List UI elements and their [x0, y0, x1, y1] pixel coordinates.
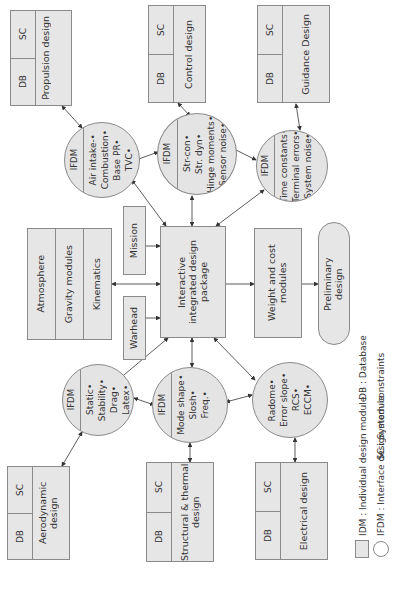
legend-db: DB : Database: [358, 300, 368, 400]
idm-label: Guidance Design: [301, 14, 312, 95]
sc-cell: SC: [8, 467, 32, 513]
environment-stack: Atmosphere Gravity modules Kinematics: [27, 228, 112, 340]
db-cell: DB: [147, 512, 171, 562]
idm-control: DBSC Control design: [148, 5, 206, 103]
warhead-module: Warhead: [123, 296, 146, 360]
db-cell: DB: [258, 54, 282, 103]
ifdm-structural: IFDM Mode shape Slosh Freq.: [152, 367, 228, 443]
legend-ifdm-swatch: [373, 541, 389, 557]
ifdm-guidance: IFDM Time constants Terminal errors Syst…: [256, 130, 328, 202]
db-cell: DB: [256, 511, 280, 560]
weight-cost-module: Weight and cost modules: [254, 228, 302, 338]
idm-structural: DBSC Structural & thermal design: [146, 462, 214, 562]
ifdm-propulsion: IFDM Air intake- Combustion Base PR TVC: [64, 122, 140, 198]
idm-aerodynamic: DBSC Aerodynamic design: [7, 466, 70, 560]
mission-module: Mission: [123, 206, 146, 275]
gravity-module: Gravity modules: [56, 229, 84, 339]
idm-label: Control design: [184, 20, 195, 89]
kinematics-module: Kinematics: [84, 229, 111, 339]
idm-label: Propulsion design: [41, 16, 67, 100]
db-cell: DB: [149, 54, 173, 103]
sc-cell: SC: [149, 6, 173, 54]
ifdm-control: IFDM Str-con Str. dyn Hinge moments Sens…: [157, 113, 237, 195]
sc-cell: SC: [256, 463, 280, 511]
idm-label: Aerodynamic design: [38, 467, 64, 559]
atmosphere-module: Atmosphere: [28, 229, 56, 339]
idm-electrical: DBSC Electrical design: [255, 462, 328, 560]
sc-cell: SC: [147, 463, 171, 512]
db-cell: DB: [8, 513, 32, 560]
idm-propulsion: DBSC Propulsion design: [10, 10, 72, 106]
sc-cell: SC: [258, 6, 282, 54]
sc-cell: SC: [11, 11, 35, 58]
ifdm-electrical: Radome Error slope RCS ECCM: [252, 362, 328, 438]
integrated-design-package: Interactive integrated design package: [160, 226, 226, 338]
legend-idm: IDM : Individual design module: [358, 400, 368, 536]
legend-ifdm: IFDM : Interface design module: [376, 400, 386, 536]
idm-guidance: DBSC Guidance Design: [257, 5, 330, 103]
idm-label: Structural & thermal design: [180, 463, 206, 561]
idm-label: Electrical design: [299, 472, 310, 550]
legend-idm-swatch: [355, 540, 369, 558]
db-cell: DB: [11, 58, 35, 106]
ifdm-aerodynamic: IFDM Static Stability Drag Latex: [62, 364, 134, 436]
preliminary-design: Preliminary design: [318, 222, 350, 345]
